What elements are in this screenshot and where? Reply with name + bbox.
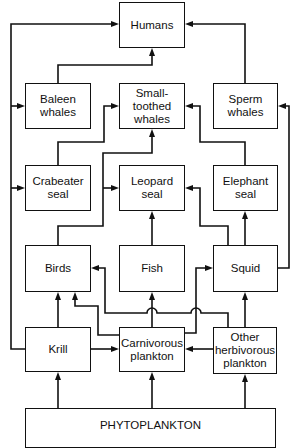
node-label: PHYTOPLANKTON <box>100 419 201 432</box>
arrowhead-icon <box>55 292 61 300</box>
node-label: Krill <box>48 343 67 356</box>
arrowhead-icon <box>242 374 248 382</box>
arrowhead-icon <box>149 129 155 137</box>
node-label: Birds <box>45 262 71 275</box>
node-krill: Krill <box>25 327 91 372</box>
node-carnivorous-plankton: Carnivorous plankton <box>119 327 185 372</box>
node-label: Elephant seal <box>223 175 268 201</box>
node-label: Small- toothed whales <box>133 87 171 126</box>
arrowhead-icon <box>149 48 155 56</box>
node-label: Leopard seal <box>131 175 173 201</box>
arrowhead-icon <box>205 265 213 271</box>
arrowhead-icon <box>242 292 248 300</box>
node-sperm-whales: Sperm whales <box>213 83 278 129</box>
node-label: Sperm whales <box>228 93 264 119</box>
node-birds: Birds <box>25 245 91 292</box>
node-label: Humans <box>131 19 174 32</box>
arrowhead-icon <box>17 185 25 191</box>
node-fish: Fish <box>119 245 185 292</box>
arrowhead-icon <box>149 292 155 300</box>
arrowhead-icon <box>185 21 193 27</box>
arrowhead-icon <box>111 103 119 109</box>
node-label: Baleen whales <box>40 93 76 119</box>
edge-sperm-humans <box>191 24 245 83</box>
edge-carnivorous-squid <box>185 268 207 333</box>
node-leopard-seal: Leopard seal <box>119 165 185 211</box>
arrowhead-icon <box>111 21 119 27</box>
node-humans: Humans <box>119 2 185 48</box>
node-label: Fish <box>141 262 163 275</box>
node-baleen-whales: Baleen whales <box>25 83 91 129</box>
node-small-toothed-whales: Small- toothed whales <box>119 83 185 129</box>
edge-baleen-humans <box>58 54 152 83</box>
arrowhead-icon <box>278 103 286 109</box>
arrowhead-icon <box>72 292 78 300</box>
node-elephant-seal: Elephant seal <box>213 165 278 211</box>
node-other-herbivorous-plankton: Other herbivorous plankton <box>213 327 277 374</box>
arrowhead-icon <box>242 211 248 219</box>
arrowhead-icon <box>111 185 119 191</box>
node-label: Crabeater seal <box>32 175 83 201</box>
arrowhead-icon <box>149 211 155 219</box>
node-label: Other herbivorous plankton <box>215 331 275 370</box>
arrowhead-icon <box>149 372 155 380</box>
arrowhead-icon <box>185 346 193 352</box>
arrowhead-icon <box>185 103 193 109</box>
arrowhead-icon <box>91 265 99 271</box>
edge-squid-sperm <box>278 106 289 268</box>
arrowhead-icon <box>185 185 193 191</box>
arrowhead-icon <box>111 346 119 352</box>
node-label: Squid <box>231 262 260 275</box>
node-squid: Squid <box>213 245 278 292</box>
node-phytoplankton: PHYTOPLANKTON <box>25 408 276 448</box>
arrowhead-icon <box>17 103 25 109</box>
arrowhead-icon <box>55 372 61 380</box>
node-crabeater-seal: Crabeater seal <box>25 165 91 211</box>
node-label: Carnivorous plankton <box>121 337 183 363</box>
